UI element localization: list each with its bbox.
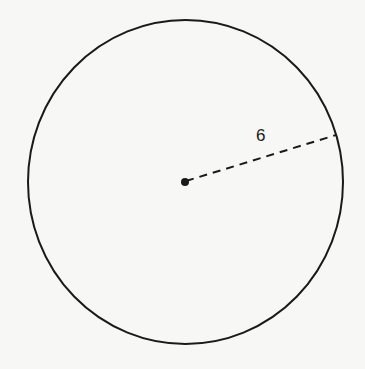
circle-diagram: 6 <box>0 0 365 369</box>
center-point <box>181 178 189 186</box>
radius-label: 6 <box>256 126 265 145</box>
